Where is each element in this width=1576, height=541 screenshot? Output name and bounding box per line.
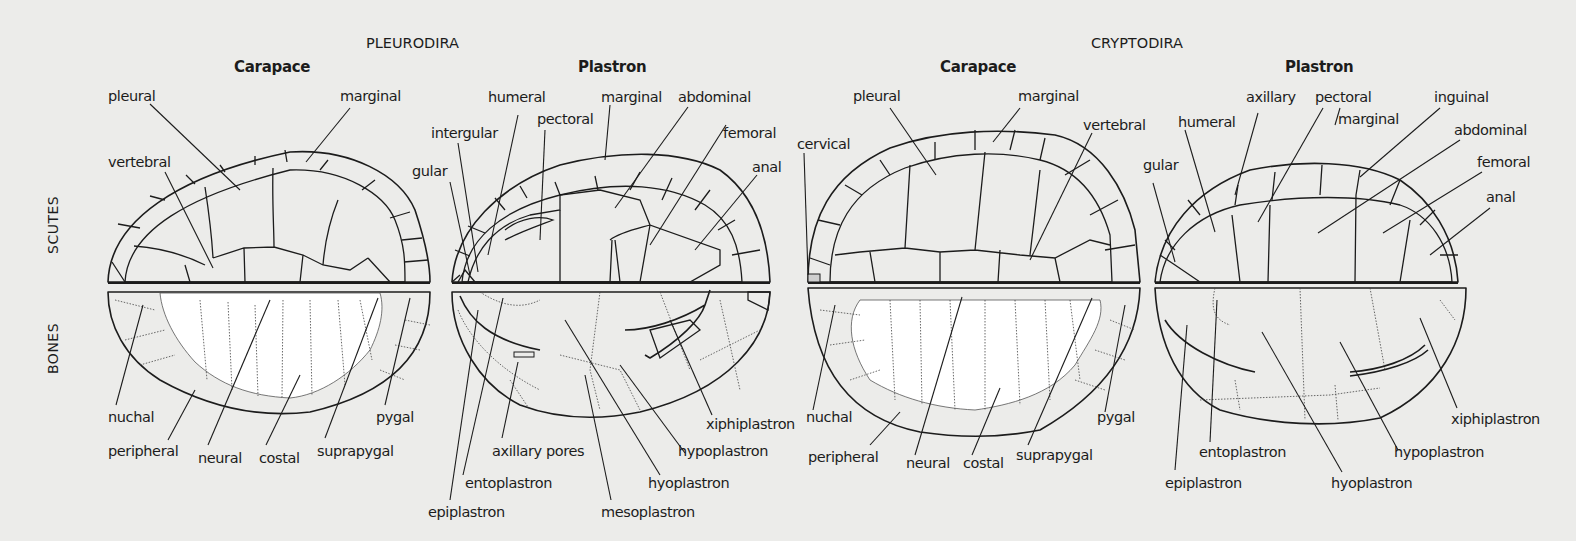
panel-title-crypto-plastron: Plastron bbox=[1285, 60, 1353, 75]
panel-title-crypto-carapace: Carapace bbox=[940, 60, 1016, 75]
label-hyoplastron: hyoplastron bbox=[648, 476, 729, 491]
label-axillary: axillary bbox=[1246, 90, 1296, 105]
label-neural: neural bbox=[906, 456, 950, 471]
label-epiplastron: epiplastron bbox=[428, 505, 505, 520]
label-cervical: cervical bbox=[797, 137, 850, 152]
crypto-plastron-bones bbox=[1155, 288, 1466, 424]
label-xiphiplastron: xiphiplastron bbox=[706, 417, 795, 432]
label-marginal: marginal bbox=[1338, 112, 1399, 127]
divider bbox=[452, 282, 770, 284]
label-pleural: pleural bbox=[108, 89, 155, 104]
group-title-pleurodira: PLEURODIRA bbox=[366, 36, 459, 51]
label-axillary-pores: axillary pores bbox=[492, 444, 584, 459]
group-title-cryptodira: CRYPTODIRA bbox=[1091, 36, 1183, 51]
label-peripheral: peripheral bbox=[108, 444, 178, 459]
label-costal: costal bbox=[963, 456, 1004, 471]
label-pygal: pygal bbox=[376, 410, 414, 425]
label-femoral: femoral bbox=[723, 126, 776, 141]
label-humeral: humeral bbox=[1178, 115, 1236, 130]
panel-title-pleuro-plastron: Plastron bbox=[578, 60, 646, 75]
label-suprapygal: suprapygal bbox=[1016, 448, 1093, 463]
label-abdominal: abdominal bbox=[678, 90, 751, 105]
label-costal: costal bbox=[259, 451, 300, 466]
label-femoral: femoral bbox=[1477, 155, 1530, 170]
divider bbox=[108, 282, 430, 284]
panel-title-pleuro-carapace: Carapace bbox=[234, 60, 310, 75]
label-pectoral: pectoral bbox=[537, 112, 593, 127]
label-pectoral: pectoral bbox=[1315, 90, 1371, 105]
label-gular: gular bbox=[412, 164, 447, 179]
pleuro-plastron-scutes bbox=[452, 154, 770, 282]
label-hypoplastron: hypoplastron bbox=[1394, 445, 1484, 460]
label-hypoplastron: hypoplastron bbox=[678, 444, 768, 459]
label-abdominal: abdominal bbox=[1454, 123, 1527, 138]
label-entoplastron: entoplastron bbox=[1199, 445, 1286, 460]
label-intergular: intergular bbox=[431, 126, 498, 141]
label-anal: anal bbox=[1486, 190, 1515, 205]
crypto-carapace-scutes bbox=[808, 130, 1140, 282]
pleuro-carapace-bones bbox=[108, 292, 430, 414]
label-inguinal: inguinal bbox=[1434, 90, 1489, 105]
label-gular: gular bbox=[1143, 158, 1178, 173]
label-marginal: marginal bbox=[1018, 89, 1079, 104]
label-humeral: humeral bbox=[488, 90, 546, 105]
label-vertebral: vertebral bbox=[108, 155, 171, 170]
pleuro-plastron-bones bbox=[452, 290, 770, 417]
label-nuchal: nuchal bbox=[806, 410, 852, 425]
label-peripheral: peripheral bbox=[808, 450, 878, 465]
label-anal: anal bbox=[752, 160, 781, 175]
row-label-bones: BONES bbox=[45, 323, 61, 374]
label-vertebral: vertebral bbox=[1083, 118, 1146, 133]
label-suprapygal: suprapygal bbox=[317, 444, 394, 459]
label-epiplastron: epiplastron bbox=[1165, 476, 1242, 491]
label-hyoplastron: hyoplastron bbox=[1331, 476, 1412, 491]
row-label-scutes: SCUTES bbox=[45, 196, 61, 254]
divider bbox=[1155, 282, 1458, 284]
label-entoplastron: entoplastron bbox=[465, 476, 552, 491]
label-neural: neural bbox=[198, 451, 242, 466]
label-nuchal: nuchal bbox=[108, 410, 154, 425]
label-marginal: marginal bbox=[601, 90, 662, 105]
label-mesoplastron: mesoplastron bbox=[601, 505, 695, 520]
label-pleural: pleural bbox=[853, 89, 900, 104]
crypto-carapace-bones bbox=[808, 288, 1140, 436]
label-pygal: pygal bbox=[1097, 410, 1135, 425]
label-marginal: marginal bbox=[340, 89, 401, 104]
divider bbox=[808, 282, 1140, 284]
label-xiphiplastron: xiphiplastron bbox=[1451, 412, 1540, 427]
